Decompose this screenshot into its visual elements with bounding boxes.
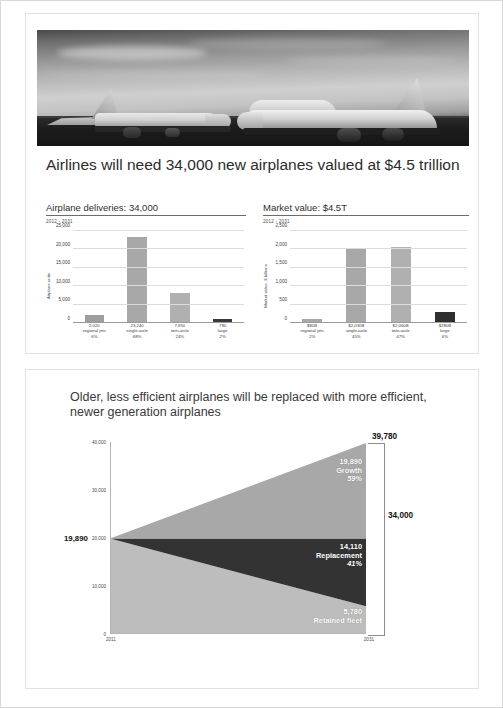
- slide-2-title: Older, less efficient airplanes will be …: [70, 390, 440, 420]
- y-axis-line: [110, 442, 111, 634]
- airplane-left-engine: [165, 128, 180, 137]
- chart-heading: Market value: $4.5T: [263, 202, 469, 216]
- y-tick-label: 2,000: [276, 241, 288, 246]
- y-tick-label: 15,000: [56, 260, 70, 265]
- band-growth: [110, 443, 366, 538]
- grid-line: 1,000: [290, 285, 467, 286]
- segment-pct: 41%: [316, 560, 362, 569]
- area-plot: 2011 2031 19,890 Growth 59% 14,110 Repla…: [110, 442, 366, 634]
- y-tick-label: 30,000: [92, 488, 106, 493]
- airplane-right-engine: [337, 128, 361, 142]
- grid-line: 1,500: [290, 267, 467, 268]
- annotation-new-deliveries-total: 34,000: [388, 511, 413, 520]
- bar: [170, 293, 190, 322]
- y-tick-label: 10,000: [56, 278, 70, 283]
- x-axis-labels: 2,020regional jets6%23,240single-aisle68…: [73, 323, 244, 345]
- boeing-airplanes-photo: [37, 30, 469, 146]
- slide-1-title: Airlines will need 34,000 new airplanes …: [46, 156, 461, 174]
- total-bracket: [368, 443, 385, 636]
- bar-share-label: 45%: [337, 334, 376, 339]
- chart-subtitle: 2012 - 2031: [46, 219, 246, 224]
- x-tick-label: $2,060Btwin-aisle47%: [381, 323, 420, 345]
- segment-label-replacement: 14,110 Replacement 41%: [316, 543, 362, 569]
- y-tick-label: 1,000: [276, 278, 288, 283]
- annotation-2031-fleet: 39,780: [372, 432, 397, 441]
- y-tick-label: 500: [279, 297, 287, 302]
- area-chart-wrapper: 2011 2031 19,890 Growth 59% 14,110 Repla…: [46, 432, 460, 662]
- x-tick-start: 2011: [106, 637, 116, 642]
- grid-line: 25,000: [73, 230, 244, 231]
- bar: [435, 312, 455, 322]
- slide-1: Airlines will need 34,000 new airplanes …: [25, 13, 479, 354]
- y-tick-label: 0: [284, 316, 287, 321]
- grid-line: 2,000: [290, 248, 467, 249]
- y-axis-label: Market value, $ billions: [263, 264, 268, 308]
- annotation-2011-fleet: 19,890: [64, 534, 88, 543]
- y-tick-label: 25,000: [56, 223, 70, 228]
- grid-line: 2,500: [290, 230, 467, 231]
- x-tick-label: 7,950twin-aisle24%: [161, 323, 199, 345]
- bar-share-label: 6%: [76, 334, 114, 339]
- chart-market-value: Market value: $4.5T 2012 - 2031 Market v…: [263, 202, 469, 345]
- bar-plot: 05,00010,00015,00020,00025,000: [73, 231, 244, 323]
- bar-column: [381, 231, 420, 322]
- grid-line: 500: [290, 304, 467, 305]
- x-tick-label: 790large2%: [204, 323, 242, 345]
- x-tick-end: 2031: [364, 637, 374, 642]
- bar-column: [118, 231, 156, 322]
- bar-share-label: 6%: [425, 334, 464, 339]
- cloud-shape: [187, 38, 387, 49]
- segment-name: Retained fleet: [314, 617, 362, 626]
- segment-label-retained: 5,780 Retained fleet: [314, 608, 362, 625]
- bar-column: [425, 231, 464, 322]
- bar-plot: 05001,0001,5002,0002,500: [290, 231, 467, 323]
- y-tick-label: 1,500: [276, 260, 288, 265]
- airplane-left-underside: [95, 126, 231, 132]
- document-page: Airlines will need 34,000 new airplanes …: [0, 0, 503, 708]
- bar-column: [293, 231, 332, 322]
- chart-airplane-deliveries: Airplane deliveries: 34,000 2012 - 2031 …: [46, 202, 246, 345]
- y-tick-label: 2,500: [276, 223, 288, 228]
- bar-series: [290, 231, 467, 322]
- y-tick-label: 20,000: [56, 241, 70, 246]
- bar-column: [76, 231, 114, 322]
- chart-subtitle: 2012 - 2031: [263, 219, 469, 224]
- x-tick-label: 2,020regional jets6%: [76, 323, 114, 345]
- plot-area-deliveries: Airplane units 05,00010,00015,00020,0002…: [46, 227, 246, 345]
- cloud-shape: [37, 70, 267, 78]
- grid-line: 5,000: [73, 304, 244, 305]
- bar-share-label: 2%: [293, 334, 332, 339]
- x-tick-label: 23,240single-aisle68%: [118, 323, 156, 345]
- bar-share-label: 2%: [204, 334, 242, 339]
- bar-share-label: 68%: [118, 334, 156, 339]
- grid-line: 20,000: [73, 248, 244, 249]
- bar: [127, 237, 147, 322]
- y-tick-label: 20,000: [92, 536, 106, 541]
- area-band-svg: [110, 442, 366, 634]
- plot-area-market-value: Market value, $ billions 05001,0001,5002…: [263, 227, 469, 345]
- bar: [85, 315, 105, 322]
- x-tick-label: $280Blarge6%: [425, 323, 464, 345]
- y-tick-label: 5,000: [59, 297, 71, 302]
- slide-2: Older, less efficient airplanes will be …: [25, 369, 479, 689]
- grid-line: 15,000: [73, 267, 244, 268]
- stacked-bands: [110, 442, 366, 634]
- chart-heading: Airplane deliveries: 34,000: [46, 202, 246, 216]
- y-tick-label: 0: [103, 632, 106, 637]
- bar-column: [204, 231, 242, 322]
- bar-series: [73, 231, 244, 322]
- airplane-right-engine: [382, 128, 404, 141]
- segment-pct: 59%: [336, 475, 362, 484]
- segment-label-growth: 19,890 Growth 59%: [336, 458, 362, 484]
- bar-column: [161, 231, 199, 322]
- bar-share-label: 47%: [381, 334, 420, 339]
- cloud-shape: [57, 46, 207, 60]
- cloud-shape: [287, 56, 457, 65]
- y-tick-label: 0: [67, 316, 70, 321]
- x-axis-labels: $80Bregional jets2%$2,030Bsingle-aisle45…: [290, 323, 467, 345]
- x-tick-label: $80Bregional jets2%: [293, 323, 332, 345]
- y-tick-label: 10,000: [92, 584, 106, 589]
- y-axis-label: Airplane units: [46, 273, 51, 299]
- y-tick-label: 40,000: [92, 440, 106, 445]
- grid-line: 10,000: [73, 285, 244, 286]
